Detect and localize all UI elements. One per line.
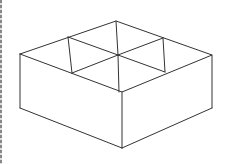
center-vertical: [118, 55, 119, 92]
left-divider-vertical: [68, 37, 72, 73]
divider-top-b: [118, 38, 163, 55]
right-divider-vertical: [163, 38, 165, 72]
divider-front-a: [118, 55, 165, 72]
outer-box: [20, 21, 212, 148]
bottom-left-edge: [20, 108, 122, 148]
dividers: [68, 21, 165, 92]
back-center-vertical: [116, 21, 118, 55]
bottom-right-edge: [122, 108, 212, 148]
box-diagram: [0, 0, 225, 164]
divider-front-b: [72, 55, 118, 73]
divider-top-a: [68, 37, 118, 55]
top-rim: [20, 21, 212, 92]
